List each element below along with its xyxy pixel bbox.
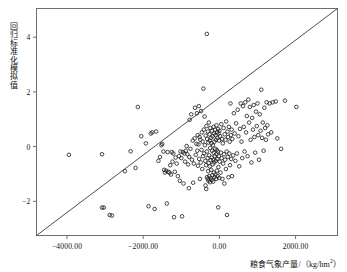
y-axis-title: 回归标准化模拟值 (2, 22, 18, 89)
x-tick-label: −4000.00 (52, 242, 82, 251)
y-tick-label: 0 (16, 142, 31, 151)
superscript-two: 2 (330, 258, 333, 264)
scatter-plot-figure: −4000.00−2000.000.002000.00 −2024 粮食气象产量… (0, 0, 347, 272)
y-tick-label: −2 (16, 197, 31, 206)
x-tick-label: 2000.00 (283, 242, 309, 251)
x-tick-label: 0.00 (212, 242, 226, 251)
reference-line (37, 9, 338, 236)
x-tick-label: −2000.00 (128, 242, 158, 251)
y-tick-label: 2 (16, 87, 31, 96)
x-axis-title: 粮食气象产量/（kg/hm2） (250, 258, 341, 269)
y-tick-label: 4 (16, 33, 31, 42)
plot-canvas (0, 0, 347, 272)
